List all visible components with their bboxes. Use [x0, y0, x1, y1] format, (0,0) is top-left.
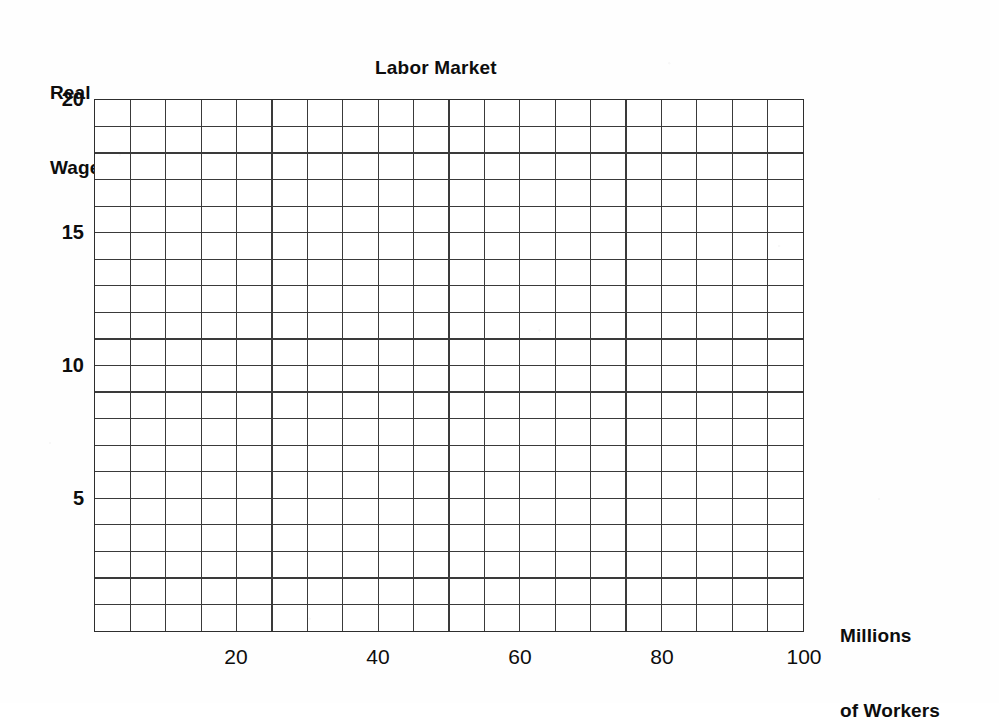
- x-tick-label-20: 20: [201, 645, 271, 669]
- y-tick-label-20: 20: [44, 88, 84, 111]
- x-axis-title: Millions of Workers: [840, 573, 940, 721]
- y-tick-label-10: 10: [44, 354, 84, 377]
- y-axis-title: Real Wage: [50, 30, 100, 230]
- y-tick-label-5: 5: [44, 487, 84, 510]
- x-tick-label-100: 100: [769, 645, 839, 669]
- y-tick-label-15: 15: [44, 221, 84, 244]
- plot-area: [94, 99, 804, 632]
- y-axis-title-line-2: Wage: [50, 155, 100, 180]
- x-axis-title-line-1: Millions: [840, 623, 940, 648]
- x-tick-label-80: 80: [627, 645, 697, 669]
- x-tick-label-60: 60: [485, 645, 555, 669]
- grid-lines: [95, 100, 803, 631]
- x-axis-title-line-2: of Workers: [840, 698, 940, 721]
- chart-title: Labor Market: [375, 57, 497, 79]
- x-tick-label-40: 40: [343, 645, 413, 669]
